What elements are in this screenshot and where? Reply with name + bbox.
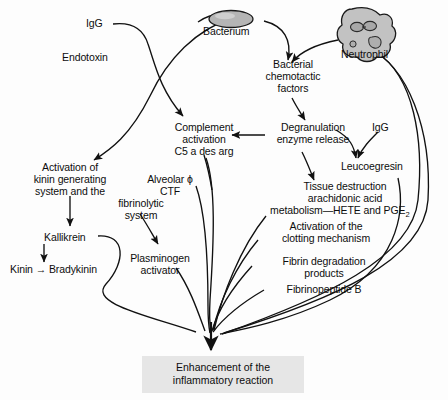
label-fibrinolytic-system: system — [104, 209, 178, 221]
label-tissue-destruction: Tissue destruction — [288, 180, 402, 192]
outcome-box: Enhancement of the inflammatory reaction — [142, 356, 304, 393]
label-bacterium: Bacterium — [203, 25, 249, 37]
edge-complement-to-convergence — [206, 158, 213, 332]
edge-plasminogen-to-convergence — [176, 268, 205, 331]
label-products: products — [264, 267, 384, 279]
label-clotting-mechanism: clotting mechanism — [266, 232, 386, 244]
label-system-and-the: system and the — [16, 185, 124, 197]
label-factors: factors — [258, 82, 328, 94]
label-endotoxin: Endotoxin — [62, 51, 108, 63]
label-plasminogen-activator: activator — [118, 264, 202, 276]
label-activation: activation — [148, 133, 260, 145]
label-metabolism-text: metabolism—HETE and PGE — [270, 204, 405, 216]
outcome-line-2: inflammatory reaction — [152, 374, 294, 387]
label-c5a-des-arg: C5 a des arg — [148, 145, 260, 157]
label-activation-of: Activation of — [16, 161, 124, 173]
label-degranulation: Degranulation — [265, 121, 361, 133]
label-kinin-bradykinin: Kinin → Bradykinin — [10, 263, 97, 275]
label-ctf: CTF — [138, 185, 202, 197]
label-enzyme-release: enzyme release — [265, 133, 361, 145]
edge-igg-right-to-leucoegresin — [358, 132, 378, 158]
label-alveolar-phi: Alveolar ϕ — [138, 173, 202, 185]
edge-bacterium-to-chemotactic — [264, 21, 289, 60]
diagram-canvas: IgG Bacterium Neutrophil Endotoxin Bacte… — [0, 0, 448, 400]
label-kallikrein: Kallikrein — [44, 231, 86, 243]
label-fibrin-degradation: Fibrin degradation — [264, 255, 384, 267]
label-pge-subscript: 2 — [405, 210, 409, 219]
label-activation-of-the: Activation of the — [266, 220, 386, 232]
label-fibrinopeptide-b: Fibrinopeptide B — [264, 283, 384, 295]
edge-chemotactic-to-degranulation — [292, 98, 305, 120]
label-chemotactic: chemotactic — [258, 70, 328, 82]
edge-degranulation-to-tissue — [302, 152, 314, 180]
label-complement: Complement — [148, 121, 260, 133]
label-igg-left: IgG — [86, 17, 103, 29]
label-arachidonic-acid: arachidonic acid — [288, 192, 402, 204]
edge-tissue-to-convergence — [214, 216, 266, 330]
label-fibrinolytic: fibrinolytic — [104, 197, 178, 209]
edge-kallikrein-to-convergence — [98, 236, 196, 332]
edge-igg-to-complement — [113, 24, 183, 116]
outcome-line-1: Enhancement of the — [152, 361, 294, 374]
label-leucoegresin: Leucoegresin — [341, 160, 403, 172]
label-igg-right: IgG — [372, 121, 389, 133]
label-bacterial: Bacterial — [258, 58, 328, 70]
label-metabolism-hete-pge: metabolism—HETE and PGE2 — [270, 204, 410, 222]
edge-complement-down — [204, 155, 212, 190]
label-kinin-generating: kinin generating — [16, 173, 124, 185]
label-plasminogen: Plasminogen — [118, 252, 202, 264]
label-neutrophil: Neutrophil — [341, 48, 388, 60]
